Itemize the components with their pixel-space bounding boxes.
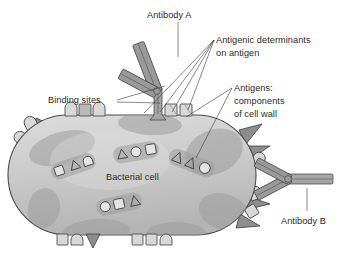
label-binding-sites: Binding sites (48, 95, 101, 105)
antibody-a (118, 41, 166, 120)
label-antibody-b: Antibody B (281, 216, 326, 226)
label-antibody-a: Antibody A (147, 10, 192, 20)
label-bacterial-cell: Bacterial cell (106, 172, 159, 182)
surface-antigens-bottom (57, 234, 172, 248)
label-antigenic-determinants-line2: on antigen (216, 48, 259, 58)
label-antigens-line1: Antigens: (234, 83, 273, 93)
label-antigens-line2: components (234, 96, 285, 106)
label-antigenic-determinants-line1: Antigenic determinants (216, 35, 311, 45)
figure-root: Antibody A Antigenic determinants on ant… (0, 0, 349, 257)
label-antigens-line3: of cell wall (234, 109, 277, 119)
antibody-b (254, 158, 333, 201)
diagram-canvas: Antibody A Antigenic determinants on ant… (0, 0, 349, 257)
